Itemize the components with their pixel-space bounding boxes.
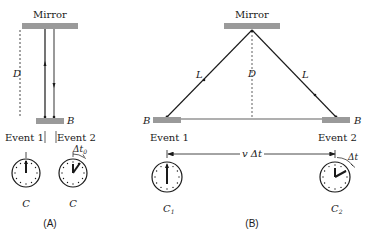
delta-t-label-b: Δt <box>347 152 358 162</box>
clock-c-event1 <box>12 152 40 187</box>
right-leg <box>252 30 336 117</box>
event2-label-a: Event 2 <box>57 132 96 143</box>
right-leg-label: L <box>301 69 309 80</box>
top-mirror-b <box>224 23 280 29</box>
top-mirror-a <box>22 23 78 29</box>
arrow-down-icon <box>53 83 56 88</box>
arrow-down-icon <box>314 94 317 97</box>
clock2-label-a: C <box>69 198 77 209</box>
event2-label-b: Event 2 <box>318 132 357 143</box>
left-leg <box>167 30 252 117</box>
clock2-label-b: C2 <box>331 203 343 215</box>
displacement-label: v Δt <box>242 148 263 159</box>
panel-b: Mirror D L L B B Event 1 Event 2 v Δt <box>142 9 361 229</box>
apex-dot <box>251 30 254 33</box>
left-mirror-label: B <box>142 115 150 126</box>
bottom-mirror-a <box>36 118 64 124</box>
bottom-mirror-right <box>322 117 350 123</box>
left-leg-label: L <box>195 69 203 80</box>
clock1-label-b: C1 <box>163 203 174 215</box>
ray-dot <box>44 116 47 119</box>
panel-b-caption: (B) <box>245 218 258 229</box>
clock1-label-a: C <box>22 198 30 209</box>
distance-label-b: D <box>247 68 256 79</box>
event1-label-b: Event 1 <box>150 132 189 143</box>
clock-c1 <box>152 162 182 192</box>
clock-c-event2 <box>59 152 87 187</box>
arrow-up-icon <box>44 61 47 66</box>
delta-t0-label: Δt0 <box>72 144 87 155</box>
bottom-mirror-label-a: B <box>66 115 74 126</box>
mirror-label-a: Mirror <box>33 9 67 20</box>
bottom-mirror-left <box>153 117 181 123</box>
event1-label-a: Event 1 <box>5 132 44 143</box>
panel-a-caption: (A) <box>43 218 56 229</box>
ray-dot <box>53 116 56 119</box>
panel-a: Mirror D B Event 1 Event 2 <box>5 9 96 229</box>
light-clock-diagram: Mirror D B Event 1 Event 2 <box>0 0 366 235</box>
arrow-up-icon <box>203 79 206 82</box>
distance-label-a: D <box>12 68 21 79</box>
right-mirror-label: B <box>353 115 361 126</box>
clock-c2 <box>320 158 355 193</box>
mirror-label-b: Mirror <box>235 9 269 20</box>
